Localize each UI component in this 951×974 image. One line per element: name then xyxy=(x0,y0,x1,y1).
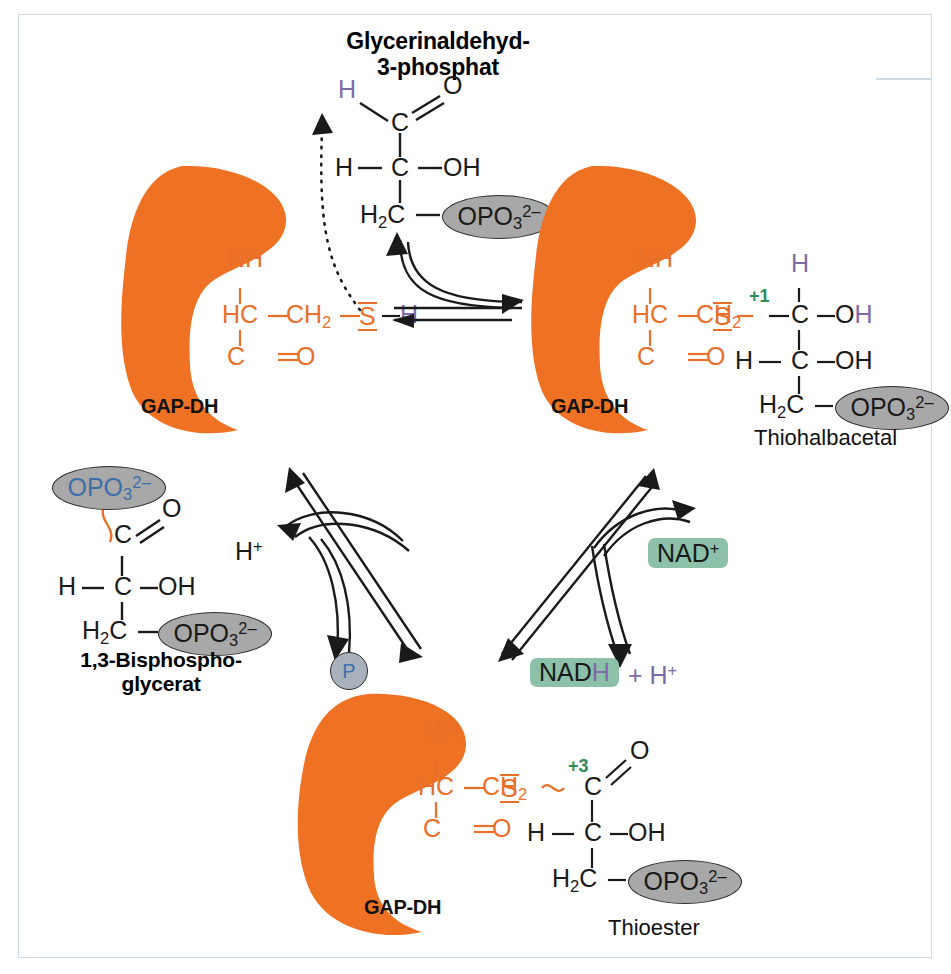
bisphosphoglycerate-C2-OH: OH xyxy=(158,574,196,599)
thiohemiacetal-molecule: S +1 H C OH H C OH H2C OPO32– xyxy=(735,258,905,418)
cysteine-top-right-C: C xyxy=(637,344,655,369)
thioester-S: S xyxy=(500,774,519,803)
figure-canvas: Glycerinaldehyd- 3-phosphat H C O H C OH… xyxy=(0,0,951,974)
cysteine-bottom-C: C xyxy=(423,816,441,841)
cysteine-top-right-O: O xyxy=(706,344,725,369)
thiohemiacetal-C1: C xyxy=(791,302,809,327)
thioester-phosphate-group: OPO32– xyxy=(628,860,742,904)
nad-plus-charge: + xyxy=(710,539,720,557)
thioester-C3: H2C xyxy=(552,866,597,894)
substrate-C2: C xyxy=(391,155,409,180)
cysteine-bottom-NH: NH xyxy=(423,718,459,743)
substrate-C3-C: C xyxy=(387,200,405,228)
cysteine-top-left-O: O xyxy=(296,344,315,369)
nadh-box: NADH xyxy=(530,658,619,687)
cysteine-top-left-HC: HC xyxy=(222,302,258,327)
cysteine-top-left: NH HC CH2 S H C O xyxy=(222,258,397,368)
thiohemiacetal-C2-OH: OH xyxy=(835,348,873,373)
substrate-title-line2: 3-phosphat xyxy=(228,54,648,80)
thiohemiacetal-C1-H: H xyxy=(791,251,809,276)
thiohemiacetal-C2: C xyxy=(791,348,809,373)
nad-plus-label: NAD xyxy=(657,539,710,567)
enzyme-top-left-label: GAP-DH xyxy=(141,395,218,418)
cysteine-bottom-O: O xyxy=(492,816,511,841)
thioester-molecule: S +3 C O H C OH H2C OPO32– xyxy=(522,730,702,895)
thioester-C1: C xyxy=(584,774,602,799)
thioester-C2-OH: OH xyxy=(628,820,666,845)
nadh-proton-label: + H+ xyxy=(628,662,677,688)
bisphosphoglycerate-C1: C xyxy=(114,522,132,547)
arrows-center-left xyxy=(275,465,465,665)
thiohemiacetal-phosphate-group: OPO32– xyxy=(835,386,949,430)
thiohemiacetal-C3: H2C xyxy=(759,392,804,420)
thioester-caption: Thioester xyxy=(608,915,700,941)
bisphosphoglycerate-C1-O: O xyxy=(162,496,181,521)
substrate-title: Glycerinaldehyd- 3-phosphat xyxy=(228,28,648,81)
bisphosphoglycerate-caption: 1,3-Bisphospho- glycerat xyxy=(26,648,296,696)
enzyme-top-right-label: GAP-DH xyxy=(551,395,628,418)
cysteine-top-left-NH: NH xyxy=(227,246,263,271)
bpg-caption-line1: 1,3-Bisphospho- xyxy=(26,648,296,672)
substrate-C3-sub: 2 xyxy=(378,213,387,231)
cysteine-bottom-HC: HC xyxy=(418,774,454,799)
thiohemiacetal-oxidation-state: +1 xyxy=(749,286,770,307)
thioester-C2: C xyxy=(584,820,602,845)
substrate-C2-OH: OH xyxy=(443,155,481,180)
nad-plus-box: NAD+ xyxy=(648,538,728,568)
substrate-phosphate-stem: OPO xyxy=(457,201,513,229)
phosphate-icon-letter: P xyxy=(342,660,355,683)
inorganic-phosphate-icon: P xyxy=(330,652,368,690)
substrate-C1: C xyxy=(391,110,409,135)
bisphosphoglycerate-C2: C xyxy=(114,574,132,599)
nadh-label: NAD xyxy=(539,658,592,686)
cysteine-top-left-C: C xyxy=(227,344,245,369)
bpg-caption-line2: glycerat xyxy=(26,672,296,696)
cysteine-top-left-CH2: CH2 xyxy=(286,302,331,330)
thiohemiacetal-C2-H: H xyxy=(735,348,753,373)
thioester-C1-O: O xyxy=(630,738,649,763)
thioester-C2-H: H xyxy=(527,820,545,845)
bisphosphoglycerate-phosphate-1: OPO32– xyxy=(52,466,166,510)
bpg-p1-stem: OPO xyxy=(67,472,123,500)
substrate-carbonyl-O: O xyxy=(443,73,462,98)
nadh-hydrogen: H xyxy=(592,658,610,686)
arrows-center-right xyxy=(468,460,678,670)
thiohemiacetal-C1-OH: OH xyxy=(835,302,873,327)
bisphosphoglycerate-C2-H: H xyxy=(58,574,76,599)
thiohemiacetal-S: S xyxy=(713,302,732,331)
proton-left-label: H+ xyxy=(235,538,263,564)
figure-border-tick xyxy=(876,78,932,80)
bisphosphoglycerate-C3: H2C xyxy=(82,618,127,646)
substrate-title-line1: Glycerinaldehyd- xyxy=(228,28,648,54)
enzyme-bottom-label: GAP-DH xyxy=(364,896,441,919)
cysteine-top-right-HC: HC xyxy=(632,302,668,327)
cysteine-top-right-NH: NH xyxy=(637,246,673,271)
thiohemiacetal-caption: Thiohalbacetal xyxy=(754,425,897,451)
